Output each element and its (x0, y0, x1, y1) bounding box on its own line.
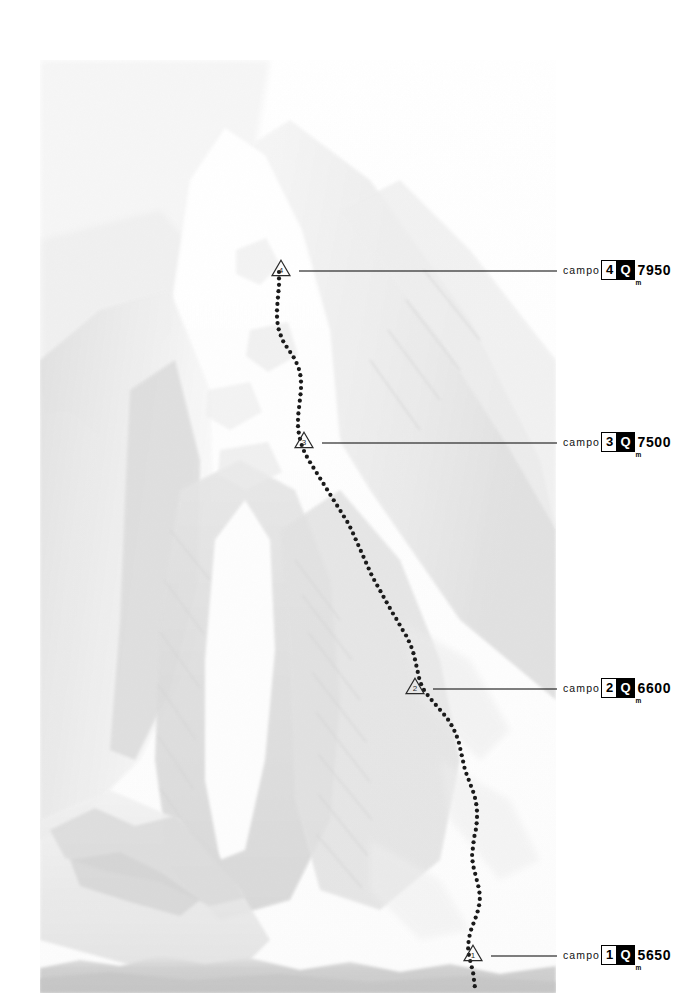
camp-marker-2[interactable]: 2 (404, 676, 426, 696)
altitude-group: 7950 m (638, 261, 672, 279)
altitude-value: 6600 (638, 680, 672, 696)
tent-symbol-box: Q (616, 678, 634, 698)
mountain-photograph (40, 60, 556, 993)
camp-marker-4[interactable]: 4 (270, 258, 292, 278)
camp-callout-1[interactable]: campo 1 Q 5650 m (563, 945, 671, 965)
tent-symbol-box: Q (616, 432, 634, 452)
topo-page: 4 3 2 1 campo 4 Q 7950 m campo 3 Q (0, 0, 699, 993)
altitude-unit: m (636, 452, 642, 459)
tent-symbol-box: Q (616, 260, 634, 280)
camp-callout-3[interactable]: campo 3 Q 7500 m (563, 432, 671, 452)
camp-marker-number: 4 (279, 266, 284, 275)
camp-callout-4[interactable]: campo 4 Q 7950 m (563, 260, 671, 280)
altitude-group: 6600 m (638, 679, 672, 697)
altitude-value: 7500 (638, 434, 672, 450)
campo-word: campo (563, 437, 600, 448)
camp-marker-number: 2 (413, 684, 418, 693)
altitude-value: 5650 (638, 947, 672, 963)
camp-marker-3[interactable]: 3 (293, 430, 315, 450)
altitude-unit: m (636, 280, 642, 287)
altitude-group: 5650 m (638, 946, 672, 964)
camp-marker-1[interactable]: 1 (462, 943, 484, 963)
film-grain (40, 60, 556, 993)
altitude-unit: m (636, 965, 642, 972)
altitude-unit: m (636, 698, 642, 705)
altitude-group: 7500 m (638, 433, 672, 451)
camp-marker-number: 3 (302, 438, 307, 447)
campo-word: campo (563, 950, 600, 961)
tent-symbol-box: Q (616, 945, 634, 965)
photograph-canvas (40, 60, 556, 993)
altitude-value: 7950 (638, 262, 672, 278)
camp-marker-number: 1 (471, 951, 476, 960)
campo-word: campo (563, 683, 600, 694)
campo-word: campo (563, 265, 600, 276)
camp-callout-2[interactable]: campo 2 Q 6600 m (563, 678, 671, 698)
